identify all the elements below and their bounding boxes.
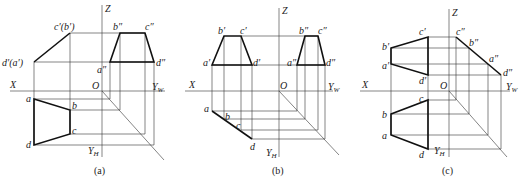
point-label: c [236,120,241,131]
point-label: d″ [503,67,513,78]
point-label: a′ [203,57,211,68]
plan-view-trapezoid [34,99,70,145]
front-view-edge [34,33,70,62]
45-degree-line [102,91,164,160]
x-label: X [361,79,369,90]
yw-label: YW [506,81,519,94]
x-label: X [188,79,196,90]
point-label: c″ [318,25,327,36]
point-label: b [72,100,77,111]
point-label: a″ [97,64,107,75]
figure-a: Z X O YW YH c′(b′) d′(a′) b″ c″ a″ d″ a … [2,3,166,177]
figure-c: Z X O YW YH c′ b′ a′ d′ c″ b″ a″ d″ c b … [360,7,519,177]
point-label: a′ [382,60,390,71]
yh-label: YH [434,145,446,158]
front-view-trapezoid [212,36,252,65]
45-degree-line [449,91,507,157]
yh-label: YH [88,145,100,158]
caption: (c) [442,165,453,177]
caption: (b) [272,165,284,177]
side-view-trapezoid [110,33,154,62]
point-label: c′(b′) [54,21,75,33]
z-label: Z [282,5,288,16]
origin-label: O [92,80,99,91]
point-label: c″ [145,21,154,32]
point-label: b′ [382,41,390,52]
point-label: a [382,130,387,141]
origin-label: O [280,80,287,91]
plan-view-trapezoid [391,100,428,149]
point-label: a [26,93,31,104]
z-label: Z [105,3,111,14]
origin-label: O [440,80,447,91]
point-label: a″ [287,57,297,68]
point-label: b″ [113,21,123,32]
z-label: Z [452,7,458,18]
45-degree-line [279,91,339,155]
point-label: b [382,109,387,120]
point-label: d″ [326,57,336,68]
plan-view-edge [212,111,252,139]
point-label: a [204,103,209,114]
yh-label: YH [266,147,278,160]
point-label: c′ [419,26,426,37]
orthographic-projection-figure: Z X O YW YH c′(b′) d′(a′) b″ c″ a″ d″ a … [0,0,525,185]
point-label: b″ [469,37,479,48]
point-label: d [419,149,425,160]
x-label: X [9,79,17,90]
point-label: c [419,93,424,104]
point-label: c″ [456,26,465,37]
front-view-trapezoid [391,37,428,75]
point-label: d′(a′) [2,57,24,69]
point-label: b′ [218,25,226,36]
point-label: b″ [299,25,309,36]
figure-b: Z X O YW YH b′ c′ a′ d′ b″ c″ a″ d″ a b … [185,5,341,177]
point-label: a″ [489,53,499,64]
point-label: d [26,139,32,150]
yw-label: YW [328,81,341,94]
side-view-trapezoid [297,36,325,65]
point-label: d [250,141,256,152]
point-label: b [225,111,230,122]
point-label: c′ [240,25,247,36]
point-label: d′ [253,57,261,68]
point-label: d″ [156,57,166,68]
point-label: c [72,125,77,136]
caption: (a) [94,165,105,177]
point-label: d′ [419,75,427,86]
